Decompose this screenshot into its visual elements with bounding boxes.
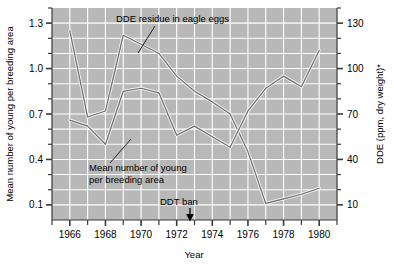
x-axis-title: Year — [184, 249, 203, 260]
y-tick-label-right: 40 — [347, 154, 359, 165]
annotation-young-label-line2: per breeding area — [89, 174, 165, 185]
x-tick-label: 1966 — [59, 229, 82, 240]
x-tick-label: 1970 — [130, 229, 153, 240]
y-tick-label-left: 1.0 — [29, 63, 43, 74]
y-tick-label-left: 1.3 — [29, 18, 43, 29]
y-tick-label-left: 0.4 — [29, 154, 43, 165]
y-tick-label-right: 10 — [347, 199, 359, 210]
y-tick-label-left: 0.1 — [29, 199, 43, 210]
x-tick-label: 1972 — [166, 229, 189, 240]
y-tick-label-right: 100 — [347, 63, 364, 74]
y-tick-label-right: 130 — [347, 18, 364, 29]
annotation-young-label-line1: Mean number of young — [89, 162, 187, 173]
annotation-dde-label: DDE residue in eagle eggs — [116, 13, 229, 24]
annotation-ddt-ban-label: DDT ban — [160, 196, 198, 207]
right-axis-title: DDE (ppm, dry weight)* — [374, 64, 385, 164]
left-axis-title: Mean number of young per breeding area — [4, 26, 15, 202]
x-tick-label: 1978 — [272, 229, 295, 240]
y-tick-label-right: 70 — [347, 109, 359, 120]
x-tick-label: 1968 — [94, 229, 117, 240]
x-tick-label: 1976 — [237, 229, 260, 240]
x-tick-label: 1980 — [308, 229, 331, 240]
chart-figure: 0.10.40.71.01.31040701001301966196819701… — [0, 0, 394, 268]
y-tick-label-left: 0.7 — [29, 109, 43, 120]
x-tick-label: 1974 — [201, 229, 224, 240]
